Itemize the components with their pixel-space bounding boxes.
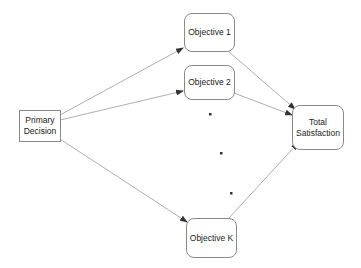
node-label: Objective 2 [188,77,231,88]
node-objective-k: Objective K [186,218,237,258]
edge-primary-to-objective-1 [60,48,183,115]
ellipsis-dot [230,192,233,195]
node-objective-1: Objective 1 [184,13,235,52]
node-total-satisfaction: Total Satisfaction [292,105,344,150]
edge-objective-2-to-total [234,93,292,115]
edge-primary-to-objective-2 [60,91,183,120]
node-label: Objective K [190,233,233,244]
node-label-line: Total [296,117,340,128]
node-label-line: Satisfaction [296,128,340,139]
node-label-line: Decision [24,126,57,137]
node-primary-decision: Primary Decision [19,110,61,142]
node-objective-2: Objective 2 [184,65,235,100]
node-label: Objective 1 [188,27,231,38]
edge-objective-k-to-total [229,143,298,218]
edge-primary-to-objective-k [60,139,187,222]
ellipsis-dot [220,152,223,155]
ellipsis-dot [209,113,212,116]
edge-objective-1-to-total [228,51,295,109]
node-label-line: Primary [24,115,57,126]
